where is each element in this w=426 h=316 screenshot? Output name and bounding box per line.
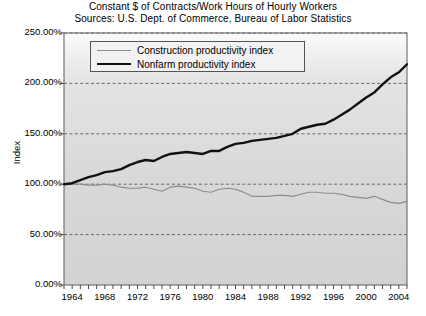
x-tick-label: 2004	[382, 291, 416, 302]
x-tick-label: 1964	[55, 291, 89, 302]
legend-line-icon-nonfarm	[97, 59, 131, 69]
x-tick-label: 1996	[317, 291, 351, 302]
legend-item-nonfarm: Nonfarm productivity index	[97, 57, 255, 71]
x-tick-label: 1992	[284, 291, 318, 302]
x-tick-label: 2000	[349, 291, 383, 302]
chart-legend: Construction productivity index Nonfarm …	[90, 41, 305, 72]
x-tick-label: 1972	[121, 291, 155, 302]
legend-item-construction: Construction productivity index	[97, 43, 273, 57]
legend-label-construction: Construction productivity index	[137, 45, 273, 56]
x-tick-label: 1976	[153, 291, 187, 302]
x-tick-label: 1968	[88, 291, 122, 302]
legend-label-nonfarm: Nonfarm productivity index	[137, 59, 255, 70]
legend-line-icon-construction	[97, 45, 131, 55]
x-tick-label: 1984	[219, 291, 253, 302]
x-tick-label: 1980	[186, 291, 220, 302]
chart-container: Constant $ of Contracts/Work Hours of Ho…	[0, 0, 426, 316]
x-tick-label: 1988	[251, 291, 285, 302]
